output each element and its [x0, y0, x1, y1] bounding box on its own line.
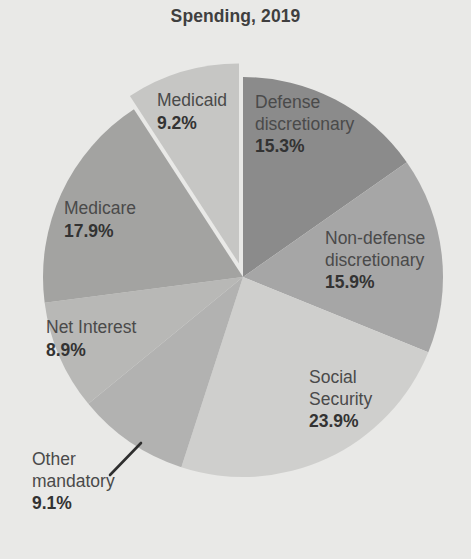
slice-value: 17.9% — [64, 221, 136, 243]
slice-label-net-interest: Net Interest 8.9% — [46, 317, 136, 361]
slice-label-line2: discretionary — [325, 250, 425, 272]
slice-label-non-defense-discretionary: Non-defense discretionary 15.9% — [325, 228, 425, 294]
slice-label-line1: Other — [32, 449, 115, 471]
slice-label-medicaid: Medicaid 9.2% — [157, 90, 227, 134]
slice-label-defense-discretionary: Defense discretionary 15.3% — [255, 92, 354, 158]
slice-value: 9.1% — [32, 493, 115, 515]
slice-label-line1: Medicaid — [157, 90, 227, 112]
slice-label-line1: Medicare — [64, 198, 136, 220]
slice-value: 9.2% — [157, 113, 227, 135]
slice-label-line1: Social — [309, 367, 372, 389]
slice-label-line1: Non-defense — [325, 228, 425, 250]
slice-label-medicare: Medicare 17.9% — [64, 198, 136, 242]
slice-value: 15.3% — [255, 136, 354, 158]
slice-value: 23.9% — [309, 411, 372, 433]
slice-label-line2: mandatory — [32, 471, 115, 493]
slice-label-line2: Security — [309, 389, 372, 411]
slice-label-line1: Defense — [255, 92, 354, 114]
slice-label-social-security: Social Security 23.9% — [309, 367, 372, 433]
slice-label-other-mandatory: Other mandatory 9.1% — [32, 449, 115, 515]
slice-label-line1: Net Interest — [46, 317, 136, 339]
pie-chart-figure: Spending, 2019 Defense discretionary 15.… — [0, 0, 471, 559]
slice-value: 15.9% — [325, 272, 425, 294]
slice-label-line2: discretionary — [255, 114, 354, 136]
slice-value: 8.9% — [46, 340, 136, 362]
